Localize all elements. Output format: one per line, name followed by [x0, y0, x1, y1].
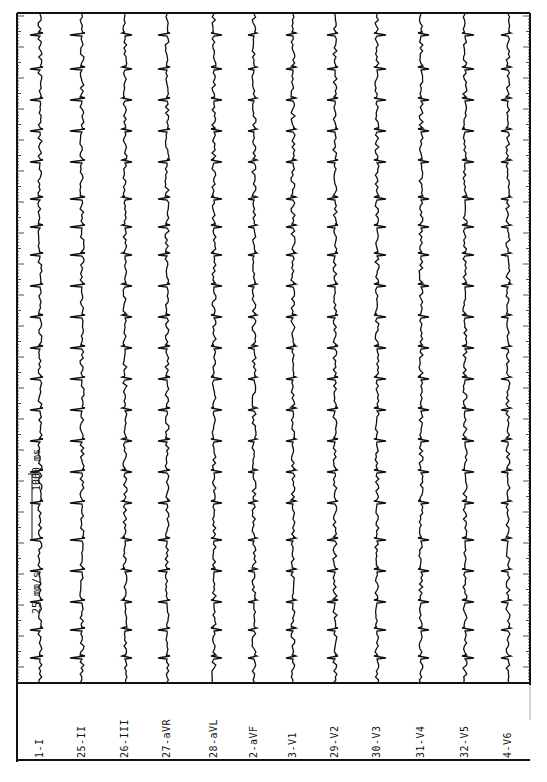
trace-25-II	[70, 14, 85, 683]
trace-28-aVL	[211, 14, 222, 683]
paper-speed-label: 25 mm/s	[31, 572, 42, 614]
lead-label: 4-V6	[502, 732, 513, 758]
trace-26-III	[122, 14, 132, 683]
trace-2-aVF	[248, 14, 257, 683]
trace-27-aVR	[158, 14, 170, 683]
lead-label: 28-aVL	[208, 719, 219, 758]
ecg-traces	[30, 14, 511, 683]
time-marker-label: 1000 ms	[31, 449, 42, 491]
trace-29-V2	[327, 14, 338, 683]
lead-label: 3-V1	[287, 732, 298, 758]
lead-label: 27-aVR	[161, 719, 172, 758]
trace-3-V1	[286, 14, 296, 683]
trace-31-V4	[418, 14, 429, 683]
lead-label: 29-V2	[329, 725, 340, 758]
lead-label: 25-II	[76, 725, 87, 758]
lead-label: 2-aVF	[248, 725, 259, 758]
lead-label: 32-V5	[459, 725, 470, 758]
time-ruler	[17, 16, 530, 683]
lead-label: 1-I	[34, 738, 45, 758]
ecg-chart	[0, 0, 547, 782]
lead-label: 26-III	[119, 719, 130, 758]
trace-30-V3	[374, 14, 386, 683]
frame	[17, 13, 530, 762]
trace-32-V5	[462, 14, 474, 683]
lead-label: 30-V3	[371, 725, 382, 758]
trace-4-V6	[501, 14, 511, 683]
lead-label: 31-V4	[415, 725, 426, 758]
